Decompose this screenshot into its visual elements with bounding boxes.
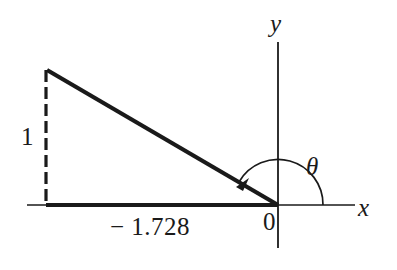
adjacent-side-length-label: − 1.728 — [110, 214, 190, 239]
x-axis-label: x — [358, 195, 369, 220]
opposite-side-length-label: 1 — [21, 124, 34, 149]
trig-diagram-figure: y x θ 0 1 − 1.728 — [0, 0, 397, 270]
origin-label: 0 — [263, 209, 276, 234]
diagram-canvas — [0, 0, 397, 270]
angle-theta-label: θ — [306, 154, 318, 179]
y-axis-label: y — [270, 11, 281, 36]
